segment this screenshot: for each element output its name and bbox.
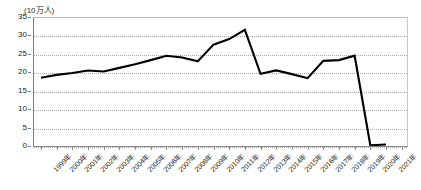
y-tick-mark bbox=[28, 17, 31, 18]
y-tick-mark bbox=[28, 109, 31, 110]
series-polyline bbox=[41, 30, 386, 145]
x-tick-mark bbox=[339, 146, 340, 150]
x-tick-mark bbox=[198, 146, 199, 150]
line-chart-figure: (10万人) 05101520253035 1999年2000年2001年200… bbox=[0, 0, 421, 190]
x-axis-line bbox=[33, 146, 408, 147]
x-tick-mark bbox=[88, 146, 89, 150]
y-tick-label: 0 bbox=[23, 142, 27, 150]
y-tick-label: 25 bbox=[18, 50, 27, 58]
y-tick-mark bbox=[28, 35, 31, 36]
y-tick-mark bbox=[28, 54, 31, 55]
x-tick-mark bbox=[119, 146, 120, 150]
x-tick-mark bbox=[355, 146, 356, 150]
x-tick-mark bbox=[166, 146, 167, 150]
x-tick-mark bbox=[245, 146, 246, 150]
y-tick-mark bbox=[28, 91, 31, 92]
y-tick-label: 30 bbox=[18, 31, 27, 39]
x-tick-mark bbox=[261, 146, 262, 150]
y-tick-mark bbox=[28, 128, 31, 129]
x-tick-mark bbox=[292, 146, 293, 150]
gridline-0 bbox=[34, 147, 407, 148]
y-tick-label: 15 bbox=[18, 87, 27, 95]
y-tick-label: 10 bbox=[18, 105, 27, 113]
x-tick-mark bbox=[323, 146, 324, 150]
series-line-chart bbox=[33, 17, 408, 146]
y-tick-label: 35 bbox=[18, 13, 27, 21]
x-tick-mark bbox=[57, 146, 58, 150]
x-tick-mark bbox=[135, 146, 136, 150]
x-tick-mark bbox=[386, 146, 387, 150]
x-tick-mark bbox=[104, 146, 105, 150]
x-tick-mark bbox=[276, 146, 277, 150]
y-axis: 05101520253035 bbox=[0, 17, 31, 146]
x-tick-mark bbox=[308, 146, 309, 150]
x-tick-mark bbox=[214, 146, 215, 150]
y-tick-mark bbox=[28, 72, 31, 73]
y-tick-label: 5 bbox=[23, 124, 27, 132]
x-tick-mark bbox=[41, 146, 42, 150]
x-tick-mark-end bbox=[402, 146, 403, 150]
x-tick-mark bbox=[151, 146, 152, 150]
x-tick-mark bbox=[229, 146, 230, 150]
x-tick-mark bbox=[182, 146, 183, 150]
x-tick-mark bbox=[370, 146, 371, 150]
y-axis-unit-label: (10万人) bbox=[24, 4, 54, 15]
y-tick-mark bbox=[28, 146, 31, 147]
y-tick-label: 20 bbox=[18, 68, 27, 76]
x-tick-mark bbox=[72, 146, 73, 150]
